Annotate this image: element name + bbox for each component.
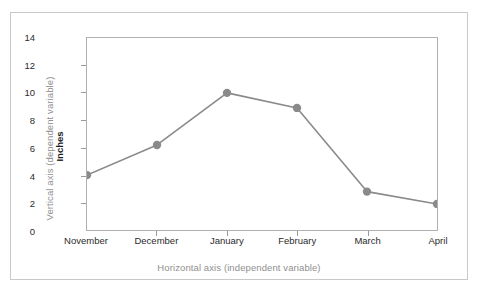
x-tick-mark xyxy=(297,231,298,236)
data-point-marker[interactable] xyxy=(363,187,371,195)
y-tick-label: 10 xyxy=(7,87,35,98)
x-tick-label: January xyxy=(210,235,244,246)
chart-card: Vertical axis (dependent variable) Inche… xyxy=(10,12,468,280)
y-tick-label: 2 xyxy=(7,198,35,209)
x-tick-label: April xyxy=(428,235,447,246)
x-axis-title: Horizontal axis (independent variable) xyxy=(11,262,467,273)
data-point-marker[interactable] xyxy=(153,141,161,149)
data-line xyxy=(87,93,437,204)
plot-area xyxy=(86,37,438,231)
x-tick-mark xyxy=(368,231,369,236)
data-point-marker[interactable] xyxy=(293,104,301,112)
y-tick-label: 6 xyxy=(7,142,35,153)
y-tick-label: 12 xyxy=(7,59,35,70)
x-tick-label: March xyxy=(354,235,380,246)
x-tick-label: December xyxy=(134,235,178,246)
y-tick-label: 8 xyxy=(7,115,35,126)
x-tick-label: November xyxy=(64,235,108,246)
x-tick-mark xyxy=(227,231,228,236)
x-tick-label: February xyxy=(278,235,316,246)
y-tick-label: 14 xyxy=(7,32,35,43)
data-point-marker[interactable] xyxy=(223,89,231,97)
data-point-marker[interactable] xyxy=(87,171,91,179)
line-chart-svg xyxy=(87,38,437,230)
x-tick-mark xyxy=(156,231,157,236)
y-axis-units-label: Inches xyxy=(54,117,65,177)
data-point-marker[interactable] xyxy=(433,200,437,208)
y-tick-label: 0 xyxy=(7,226,35,237)
y-tick-label: 4 xyxy=(7,170,35,181)
